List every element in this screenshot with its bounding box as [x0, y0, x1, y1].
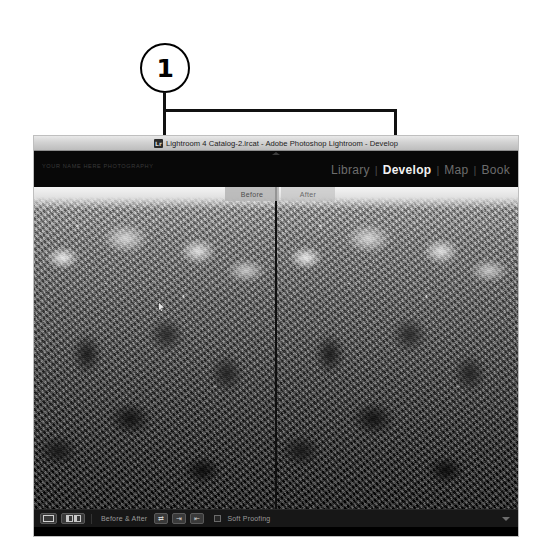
window-title: Lightroom 4 Catalog-2.lrcat - Adobe Phot…	[166, 139, 398, 148]
soft-proofing-checkbox[interactable]	[214, 515, 221, 522]
view-mode-label: Before & After	[101, 515, 147, 522]
module-header-bar: YOUR NAME HERE PHOTOGRAPHY Library | Dev…	[34, 151, 518, 187]
loupe-view-icon[interactable]	[40, 513, 57, 524]
module-item-map[interactable]: Map	[444, 163, 468, 177]
identity-plate[interactable]: YOUR NAME HERE PHOTOGRAPHY	[42, 163, 154, 169]
before-after-panes	[34, 187, 518, 509]
develop-content-area: Before After	[34, 187, 518, 509]
module-item-library[interactable]: Library	[331, 163, 370, 177]
copy-after-glyph: ⇤	[194, 515, 200, 522]
module-item-book[interactable]: Book	[481, 163, 510, 177]
after-half-glyph	[74, 515, 81, 522]
toolbar-divider	[91, 514, 92, 524]
callout-number: 1	[157, 56, 174, 81]
after-pane[interactable]	[275, 187, 518, 509]
module-separator: |	[436, 164, 439, 176]
module-separator: |	[474, 164, 477, 176]
after-photo	[277, 187, 518, 509]
callout-marker-1: 1	[140, 43, 190, 93]
module-item-develop[interactable]: Develop	[383, 163, 432, 177]
swap-glyph: ⇄	[158, 515, 164, 522]
callout-leader-horizontal	[163, 109, 397, 112]
before-after-tab-labels: Before After	[225, 187, 335, 201]
develop-toolbar: Before & After ⇄ ⇥ ⇤ Soft Proofing	[34, 509, 518, 527]
lightroom-app-icon: Lr	[154, 139, 163, 148]
before-label-tab[interactable]: Before	[225, 187, 279, 201]
before-half-glyph	[66, 515, 73, 522]
titlebar-content: Lr Lightroom 4 Catalog-2.lrcat - Adobe P…	[154, 139, 398, 148]
after-label-tab[interactable]: After	[281, 187, 335, 201]
loupe-rect-glyph	[43, 515, 54, 522]
copy-before-settings-icon[interactable]: ⇥	[172, 513, 186, 524]
toolbar-caret-icon[interactable]	[502, 517, 510, 521]
window-titlebar[interactable]: Lr Lightroom 4 Catalog-2.lrcat - Adobe P…	[34, 136, 518, 151]
before-photo	[34, 187, 275, 509]
soft-proofing-group[interactable]: Soft Proofing	[214, 515, 273, 522]
soft-proofing-label: Soft Proofing	[227, 515, 270, 522]
copy-after-settings-icon[interactable]: ⇤	[190, 513, 204, 524]
copy-before-glyph: ⇥	[176, 515, 182, 522]
module-separator: |	[375, 164, 378, 176]
collapse-triangle-icon[interactable]	[272, 152, 280, 155]
swap-before-after-icon[interactable]: ⇄	[154, 513, 168, 524]
module-picker: Library | Develop | Map | Book	[331, 163, 510, 177]
lightroom-application-window: Lr Lightroom 4 Catalog-2.lrcat - Adobe P…	[34, 136, 518, 536]
before-pane[interactable]	[34, 187, 275, 509]
before-after-view-icon[interactable]	[61, 513, 85, 524]
